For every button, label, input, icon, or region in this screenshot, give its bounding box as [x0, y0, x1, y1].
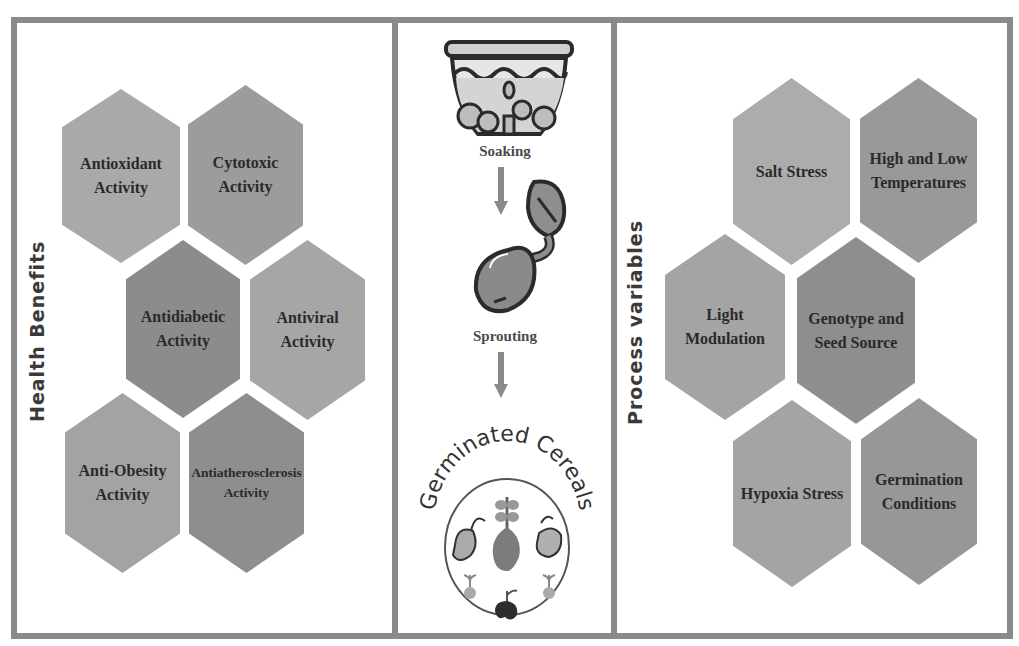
step-sprouting-label: Sprouting [445, 328, 565, 345]
sprouting-seed-icon [468, 178, 578, 318]
hex-label: Activity [187, 483, 306, 503]
hex-label: Activity [137, 329, 229, 353]
arrow-down-icon [494, 352, 508, 402]
hex-label: Activity [75, 483, 171, 507]
health-benefits-title: Health Benefits [26, 241, 48, 422]
step-soaking-label: Soaking [445, 143, 565, 160]
hex-label: Antiviral [272, 306, 342, 330]
hex-label: High and Low [866, 147, 972, 171]
panel-divider-left [392, 17, 398, 633]
hex-label: Germination [871, 468, 967, 492]
hex-label: Antiatherosclerosis [187, 463, 306, 483]
hex-label: Modulation [681, 327, 769, 351]
germinated-cereals-icon: Germinated Cereals [415, 405, 595, 625]
process-variables-title: Process variables [624, 220, 646, 425]
hex-label: Light [681, 303, 769, 327]
hex-label: Temperatures [866, 171, 972, 195]
hex-label: Activity [76, 176, 166, 200]
hex-label: Seed Source [804, 331, 908, 355]
hex-label: Cytotoxic [209, 151, 283, 175]
hex-label: Antioxidant [76, 152, 166, 176]
panel-divider-right [611, 17, 617, 633]
hex-label: Conditions [871, 492, 967, 516]
hex-label: Activity [272, 330, 342, 354]
hex-label: Activity [209, 175, 283, 199]
bowl-icon [440, 38, 580, 138]
hex-label: Genotype and [804, 307, 908, 331]
hex-label: Hypoxia Stress [737, 482, 847, 506]
hex-label: Salt Stress [752, 160, 831, 184]
hex-label: Anti-Obesity [75, 459, 171, 483]
hex-label: Antidiabetic [137, 305, 229, 329]
